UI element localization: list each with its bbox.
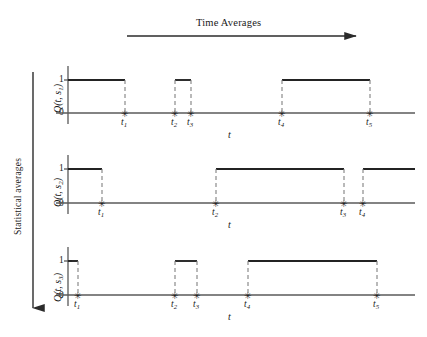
svg-text:✳: ✳ xyxy=(212,199,220,209)
panel-2: ✳ ✳ ✳ ✳ xyxy=(56,155,415,214)
svg-text:✳: ✳ xyxy=(278,109,286,119)
panel-1: ✳ ✳ ✳ ✳ ✳ xyxy=(56,66,415,124)
svg-text:✳: ✳ xyxy=(244,291,252,301)
figure-svg: ✳ ✳ ✳ ✳ ✳ ✳ ✳ ✳ ✳ xyxy=(0,0,427,337)
svg-text:✳: ✳ xyxy=(98,199,106,209)
svg-text:✳: ✳ xyxy=(366,109,374,119)
svg-text:✳: ✳ xyxy=(193,291,201,301)
svg-text:✳: ✳ xyxy=(171,109,179,119)
svg-text:✳: ✳ xyxy=(373,291,381,301)
svg-text:✳: ✳ xyxy=(171,291,179,301)
signal-figure: Time Averages Statistical averages Q(t, … xyxy=(0,0,427,337)
svg-text:✳: ✳ xyxy=(121,109,129,119)
panel-3: ✳ ✳ ✳ ✳ ✳ xyxy=(56,247,415,306)
svg-text:✳: ✳ xyxy=(74,291,82,301)
svg-text:✳: ✳ xyxy=(359,199,367,209)
svg-text:✳: ✳ xyxy=(340,199,348,209)
svg-text:✳: ✳ xyxy=(187,109,195,119)
